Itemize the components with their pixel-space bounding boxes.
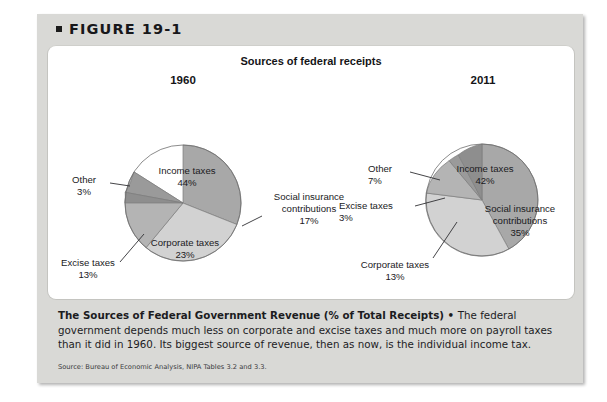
- chart-card: Sources of federal receipts 1960 2011: [47, 45, 575, 300]
- pie-label-1960-excise-taxes: Excise taxes 13%: [52, 257, 124, 281]
- pie-label-1960-corporate-taxes-value: 23%: [140, 249, 230, 261]
- pie-label-2011-excise-taxes-value: 3%: [339, 212, 415, 224]
- pie-label-1960-income-taxes-name: Income taxes: [144, 165, 230, 177]
- pie-label-2011-social-insurance-name-line1: Social insurance: [472, 203, 568, 215]
- source-line: Source: Bureau of Economic Analysis, NIP…: [58, 363, 267, 371]
- caption-text: The Sources of Federal Government Revenu…: [58, 308, 563, 352]
- pie-label-1960-income-taxes-value: 44%: [144, 177, 230, 189]
- figure-panel: FIGURE 19-1 Sources of federal receipts …: [37, 14, 583, 383]
- pie-label-1960-corporate-taxes-name: Corporate taxes: [140, 237, 230, 249]
- pie-label-2011-corporate-taxes-value: 13%: [349, 271, 441, 283]
- pie-label-2011-corporate-taxes-name: Corporate taxes: [349, 259, 441, 271]
- pie-label-2011-income-taxes-value: 42%: [442, 175, 528, 187]
- pie-label-1960-excise-taxes-value: 13%: [52, 269, 124, 281]
- leader-line-1960-social-insurance: [242, 216, 262, 226]
- pie-label-2011-social-insurance-name-line2: contributions: [472, 215, 568, 227]
- pie-label-1960-excise-taxes-name: Excise taxes: [52, 257, 124, 269]
- caption-bullet: •: [444, 309, 458, 321]
- pie-chart-2011: [410, 144, 538, 258]
- pie-label-2011-other: Other 7%: [368, 163, 412, 187]
- pie-label-2011-other-name: Other: [368, 163, 412, 175]
- pie-label-1960-other: Other 3%: [62, 174, 106, 198]
- caption-lead: The Sources of Federal Government Revenu…: [58, 309, 444, 321]
- pie-label-1960-income-taxes: Income taxes 44%: [144, 165, 230, 189]
- pie-label-2011-social-insurance-value: 35%: [472, 227, 568, 239]
- pie-label-2011-excise-taxes-name: Excise taxes: [339, 200, 415, 212]
- pie-label-2011-corporate-taxes: Corporate taxes 13%: [349, 259, 441, 283]
- leader-line-1960-other: [110, 183, 130, 186]
- pie-label-2011-social-insurance: Social insurance contributions 35%: [472, 203, 568, 240]
- pie-label-1960-other-name: Other: [62, 174, 106, 186]
- pie-label-2011-income-taxes: Income taxes 42%: [442, 163, 528, 187]
- figure-header: FIGURE 19-1: [37, 14, 583, 46]
- pie-label-2011-excise-taxes: Excise taxes 3%: [339, 200, 415, 224]
- figure-header-inner: FIGURE 19-1: [56, 21, 182, 37]
- square-bullet-icon: [56, 26, 62, 32]
- pie-label-2011-income-taxes-name: Income taxes: [442, 163, 528, 175]
- figure-label: FIGURE 19-1: [69, 21, 182, 37]
- pie-label-2011-other-value: 7%: [368, 175, 412, 187]
- caption-block: The Sources of Federal Government Revenu…: [58, 308, 563, 352]
- pie-label-1960-other-value: 3%: [62, 186, 106, 198]
- pie-label-1960-corporate-taxes: Corporate taxes 23%: [140, 237, 230, 261]
